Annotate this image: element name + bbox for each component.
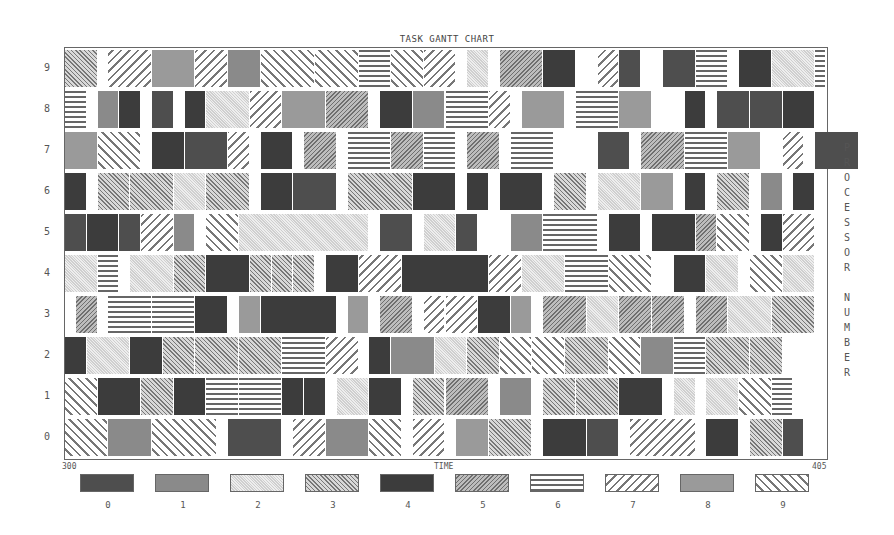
task-block xyxy=(326,91,368,128)
task-block xyxy=(772,378,793,415)
y-tick-label: 6 xyxy=(40,185,54,196)
task-block xyxy=(456,214,477,251)
legend-swatch xyxy=(680,474,734,492)
y-tick-label: 2 xyxy=(40,349,54,360)
legend-item-4: 4 xyxy=(380,474,436,510)
task-block xyxy=(500,50,542,87)
task-block xyxy=(261,173,293,210)
legend-label: 9 xyxy=(755,500,811,510)
legend-swatch xyxy=(230,474,284,492)
x-axis-min-label: 300 xyxy=(62,462,76,471)
task-block xyxy=(130,337,162,374)
task-block xyxy=(130,255,172,292)
task-block xyxy=(619,378,661,415)
legend-label: 2 xyxy=(230,500,286,510)
task-block xyxy=(728,132,760,169)
task-block xyxy=(478,296,510,333)
y-axis-label-char: M xyxy=(840,320,854,335)
task-block xyxy=(391,337,433,374)
task-block xyxy=(783,132,804,169)
task-block xyxy=(717,173,749,210)
task-block xyxy=(587,296,619,333)
task-block xyxy=(369,337,390,374)
task-block xyxy=(65,132,97,169)
task-block xyxy=(739,378,771,415)
task-block xyxy=(696,214,717,251)
task-block xyxy=(587,419,619,456)
task-block xyxy=(609,255,651,292)
legend-item-9: 9 xyxy=(755,474,811,510)
task-block xyxy=(489,255,521,292)
legend-label: 8 xyxy=(680,500,736,510)
legend-label: 0 xyxy=(80,500,136,510)
y-axis-label-char: U xyxy=(840,305,854,320)
legend-label: 1 xyxy=(155,500,211,510)
task-block xyxy=(663,50,695,87)
task-block xyxy=(239,214,368,251)
y-axis-label-char: B xyxy=(840,335,854,350)
legend-item-3: 3 xyxy=(305,474,361,510)
task-block xyxy=(696,50,728,87)
task-block xyxy=(206,378,238,415)
task-block xyxy=(261,50,314,87)
task-block xyxy=(576,378,618,415)
task-block xyxy=(685,132,727,169)
legend-swatch xyxy=(455,474,509,492)
task-block xyxy=(369,378,401,415)
task-block xyxy=(98,132,140,169)
task-block xyxy=(152,50,194,87)
task-block xyxy=(98,255,119,292)
task-block xyxy=(783,419,804,456)
y-axis-label-char: S xyxy=(840,230,854,245)
task-block xyxy=(413,173,455,210)
y-axis-label-char: E xyxy=(840,200,854,215)
legend-item-6: 6 xyxy=(530,474,586,510)
legend-label: 3 xyxy=(305,500,361,510)
task-block xyxy=(65,50,97,87)
y-axis-label: PROCESSOR NUMBER xyxy=(840,140,854,380)
task-block xyxy=(598,173,640,210)
legend-label: 4 xyxy=(380,500,436,510)
task-block xyxy=(619,91,651,128)
task-block xyxy=(174,255,206,292)
task-block xyxy=(761,173,782,210)
task-block xyxy=(706,378,738,415)
task-block xyxy=(304,132,336,169)
task-block xyxy=(359,50,391,87)
task-block xyxy=(532,337,564,374)
task-block xyxy=(272,255,293,292)
legend-item-2: 2 xyxy=(230,474,286,510)
task-block xyxy=(772,296,814,333)
task-block xyxy=(761,214,782,251)
task-block xyxy=(467,50,488,87)
task-block xyxy=(728,296,770,333)
legend-swatch xyxy=(380,474,434,492)
task-block xyxy=(141,214,173,251)
task-block xyxy=(413,378,445,415)
task-block xyxy=(380,91,412,128)
legend-label: 7 xyxy=(605,500,661,510)
task-block xyxy=(543,378,575,415)
task-block xyxy=(685,91,706,128)
task-block xyxy=(282,91,324,128)
y-tick-label: 0 xyxy=(40,431,54,442)
task-block xyxy=(326,337,358,374)
legend-item-5: 5 xyxy=(455,474,511,510)
y-axis-label-char: R xyxy=(840,260,854,275)
y-axis-label-char: O xyxy=(840,170,854,185)
task-block xyxy=(174,378,206,415)
task-block xyxy=(750,337,782,374)
task-block xyxy=(750,419,782,456)
task-block xyxy=(163,337,195,374)
task-block xyxy=(391,132,423,169)
task-block xyxy=(250,255,271,292)
task-block xyxy=(315,50,357,87)
task-block xyxy=(108,296,150,333)
task-block xyxy=(98,91,119,128)
task-block xyxy=(543,214,596,251)
task-block xyxy=(185,132,227,169)
task-block xyxy=(402,255,488,292)
task-block xyxy=(609,337,641,374)
task-block xyxy=(65,173,86,210)
y-tick-label: 5 xyxy=(40,226,54,237)
